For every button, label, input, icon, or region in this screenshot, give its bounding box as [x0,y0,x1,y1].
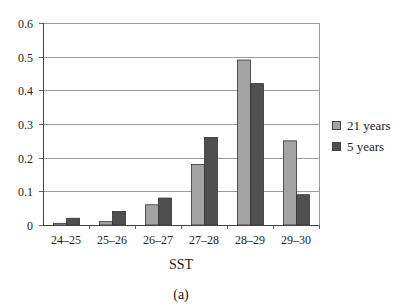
legend-label: 21 years [347,118,391,134]
y-tick-label: 0.4 [18,84,33,98]
bar-21-years [54,223,67,225]
legend-label: 5 years [347,139,384,155]
x-tick-label: 25–26 [97,233,127,247]
figure-caption: (a) [0,287,362,303]
bar-5-years [297,195,310,225]
y-tick-label: 0.2 [18,152,33,166]
bar-5-years [205,137,218,225]
bar-21-years [192,164,205,225]
bar-5-years [113,212,126,225]
y-tick-label: 0.5 [18,51,33,65]
y-tick-label: 0.6 [18,17,33,31]
x-tick-label: 24–25 [51,233,81,247]
legend-item-5-years: 5 years [332,136,391,157]
x-tick-label: 26–27 [143,233,173,247]
bar-21-years [238,60,251,225]
y-tick-label: 0 [27,219,33,233]
legend-swatch-21-years [332,121,341,130]
legend-swatch-5-years [332,142,341,151]
bar-5-years [159,198,172,225]
legend: 21 years 5 years [332,115,391,157]
bar-5-years [251,84,264,225]
legend-item-21-years: 21 years [332,115,391,136]
bar-21-years [100,222,113,225]
x-tick-label: 27–28 [189,233,219,247]
x-tick-label: 29–30 [281,233,311,247]
x-tick-label: 28–29 [235,233,265,247]
x-axis-label: SST [0,257,362,273]
bar-21-years [146,205,159,225]
bar-5-years [67,218,80,225]
bar-21-years [284,141,297,225]
y-tick-label: 0.1 [18,185,33,199]
y-tick-label: 0.3 [18,118,33,132]
